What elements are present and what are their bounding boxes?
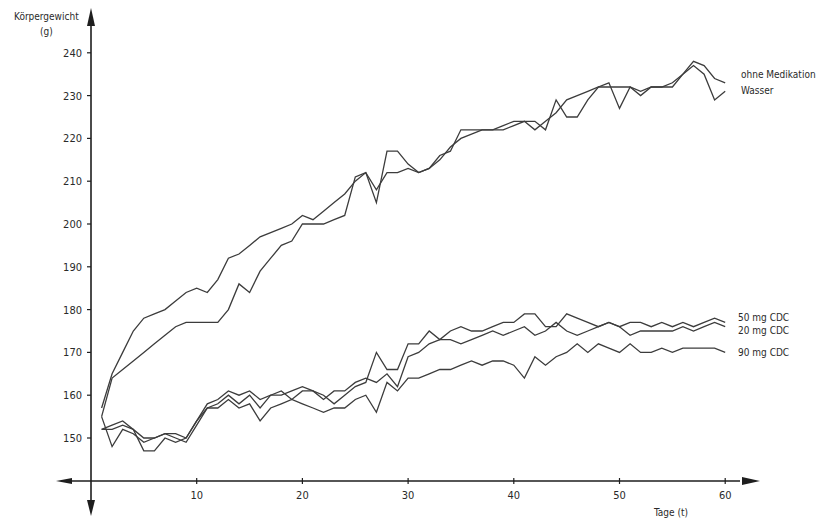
y-tick-label: 240 [63,47,82,60]
x-tick-label: 30 [402,489,415,502]
x-tick-label: 60 [719,489,732,502]
x-tick-label: 20 [296,489,309,502]
y-axis-up-arrow-icon [87,8,95,26]
legend-90mg-cdc: 90 mg CDC [738,347,789,358]
y-tick-label: 220 [63,132,82,145]
y-tick-label: 230 [63,90,82,103]
y-tick-label: 170 [63,346,82,359]
y-tick-label: 210 [63,175,82,188]
weight-line-chart: Körpergewicht (g) 1501601701801902002102… [0,0,825,524]
y-tick-label: 160 [63,389,82,402]
x-axis-title: Tage (t) [653,507,688,518]
y-axis-down-arrow-icon [87,500,95,516]
legend-20mg-cdc: 20 mg CDC [738,325,789,336]
x-axis-left-arrow-icon [56,478,72,484]
y-axis: Körpergewicht (g) 1501601701801902002102… [14,8,95,516]
legend-ohne-medikation: ohne Medikation [741,69,816,80]
series-line-20-mg-cdc [102,322,726,438]
y-tick-label: 150 [63,432,82,445]
x-tick-label: 40 [508,489,521,502]
x-axis: Tage (t) 102030405060 [56,477,760,518]
x-tick-label: 10 [190,489,203,502]
series-line-ohne-medikation [102,61,726,408]
series-group [102,61,726,450]
y-axis-unit: (g) [40,26,53,37]
x-tick-label: 50 [613,489,626,502]
x-axis-right-arrow-icon [742,477,760,485]
y-tick-label: 200 [63,218,82,231]
y-tick-label: 180 [63,304,82,317]
series-line-wasser [102,66,726,417]
legend: ohne Medikation Wasser 50 mg CDC 20 mg C… [738,69,816,358]
y-tick-label: 190 [63,261,82,274]
legend-50mg-cdc: 50 mg CDC [738,312,789,323]
y-axis-title: Körpergewicht [14,11,79,22]
series-line-50-mg-cdc [102,314,726,447]
series-line-90-mg-cdc [102,344,726,451]
legend-wasser: Wasser [741,85,774,96]
